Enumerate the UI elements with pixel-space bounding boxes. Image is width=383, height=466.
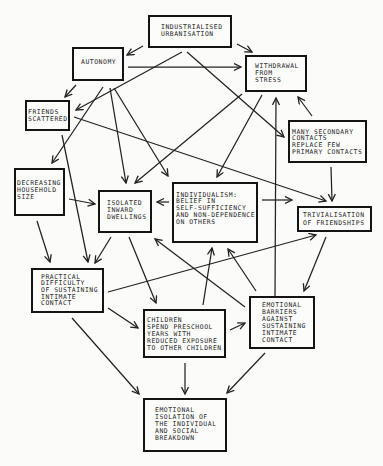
edge-decreasing-household-to-isolated-dwellings <box>69 199 95 204</box>
node-label: FRIENDS SCATTERED <box>28 109 68 123</box>
node-label: AUTONOMY <box>81 59 116 66</box>
node-trivialisation-of-friendships: TRIVIALISATION OF FRIENDSHIPS <box>297 206 372 232</box>
edge-isolated-dwellings-to-practical-difficulty <box>95 237 111 263</box>
node-label: WITHDRAWAL FROM STRESS <box>255 63 299 84</box>
node-isolated-inward-dwellings: ISOLATED INWARD DWELLINGS <box>98 190 152 233</box>
edge-emotional-barriers-to-withdrawal <box>275 98 276 296</box>
node-emotional-barriers: EMOTIONAL BARRIERS AGAINST SUSTAINING IN… <box>249 296 315 349</box>
edge-children-to-emotional-barriers <box>230 323 245 330</box>
edge-decreasing-household-to-practical-difficulty <box>37 221 50 262</box>
node-label: TRIVIALISATION OF FRIENDSHIPS <box>303 211 365 227</box>
node-label: PRACTICAL DIFFICULTY OF SUSTAINING INTIM… <box>41 274 98 308</box>
node-children-preschool: CHILDREN SPEND PRESCHOOL YEARS WITH REDU… <box>143 309 226 358</box>
edge-friends-scattered-to-practical-difficulty <box>62 135 88 262</box>
edge-emotional-barriers-to-emotional-isolation <box>227 353 265 393</box>
node-label: INDIVIDUALISM: BELIEF IN SELF-SUFFICIENC… <box>176 192 255 226</box>
node-friends-scattered: FRIENDS SCATTERED <box>25 100 70 131</box>
causal-diagram: INDUSTRIALISED URBANISATION AUTONOMY WIT… <box>0 0 383 466</box>
edge-practical-difficulty-to-children <box>108 308 138 328</box>
edge-autonomy-to-friends-scattered <box>65 85 76 97</box>
node-label: ISOLATED INWARD DWELLINGS <box>107 200 147 221</box>
edge-isolated-dwellings-to-children <box>129 237 156 303</box>
edge-withdrawal-to-individualism <box>217 95 262 177</box>
node-label: DECREASING HOUSEHOLD SIZE <box>17 180 61 201</box>
node-autonomy: AUTONOMY <box>72 47 124 81</box>
node-practical-difficulty: PRACTICAL DIFFICULTY OF SUSTAINING INTIM… <box>31 268 104 313</box>
node-individualism: INDIVIDUALISM: BELIEF IN SELF-SUFFICIENC… <box>172 182 258 243</box>
node-label: EMOTIONAL ISOLATION OF THE INDIVIDUAL AN… <box>155 407 217 442</box>
edge-withdrawal-to-isolated-dwellings <box>135 94 242 183</box>
node-label: CHILDREN SPEND PRESCHOOL YEARS WITH REDU… <box>147 317 222 352</box>
node-many-secondary-contacts: MANY SECONDARY CONTACTS REPLACE FEW PRIM… <box>288 120 367 163</box>
node-industrialised-urbanisation: INDUSTRIALISED URBANISATION <box>148 15 232 48</box>
edge-emotional-barriers-to-isolated-dwellings <box>155 239 245 307</box>
node-decreasing-household-size: DECREASING HOUSEHOLD SIZE <box>14 168 65 216</box>
edge-many-secondary-to-withdrawal <box>298 97 312 116</box>
edge-trivialisation-to-emotional-barriers <box>304 237 326 291</box>
edge-many-secondary-to-trivialisation <box>331 167 332 201</box>
node-label: EMOTIONAL BARRIERS AGAINST SUSTAINING IN… <box>262 302 306 344</box>
node-withdrawal-from-stress: WITHDRAWAL FROM STRESS <box>245 55 307 92</box>
node-label: INDUSTRIALISED URBANISATION <box>161 24 223 38</box>
node-emotional-isolation: EMOTIONAL ISOLATION OF THE INDIVIDUAL AN… <box>143 398 227 452</box>
node-label: MANY SECONDARY CONTACTS REPLACE FEW PRIM… <box>292 129 362 156</box>
edge-industrialised-to-withdrawal <box>237 44 252 52</box>
edge-practical-difficulty-to-emotional-isolation <box>72 318 139 394</box>
edge-autonomy-to-isolated-dwellings <box>110 88 126 183</box>
edge-industrialised-to-autonomy <box>127 46 143 55</box>
